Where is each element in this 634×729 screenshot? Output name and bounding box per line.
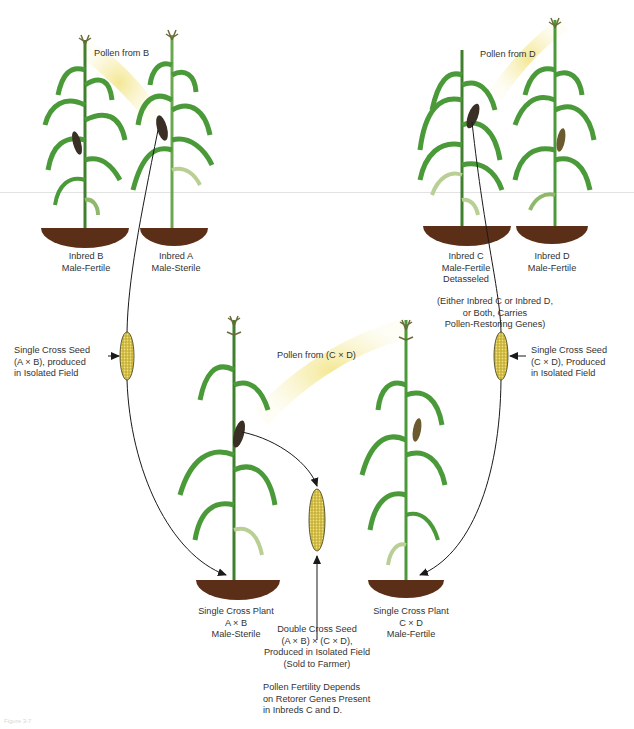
figure-caption: Figure 3-7 <box>4 718 31 724</box>
note-pollen-fertility: Pollen Fertility Dependson Retorer Genes… <box>263 682 370 717</box>
label-inbred-a: Inbred AMale-Sterile <box>140 251 212 274</box>
note-double-cross-seed: Double Cross Seed(A × B) × (C × D),Produ… <box>255 624 379 670</box>
pollen-from-d-label: Pollen from D <box>480 49 536 61</box>
label-inbred-d: Inbred DMale-Fertile <box>516 251 588 274</box>
seed-single-cross-cd <box>494 332 508 380</box>
pollen-cloud-cd <box>255 318 410 425</box>
pollen-from-b-label: Pollen from B <box>94 48 149 60</box>
note-restoring-genes: (Either Inbred C or Inbred D,or Both, Ca… <box>425 296 565 331</box>
seed-single-cross-ab <box>120 332 134 380</box>
pollen-from-cd-label: Pollen from (C × D) <box>277 350 356 362</box>
note-seed-ab: Single Cross Seed(A × B), producedin Iso… <box>14 345 90 380</box>
note-seed-cd: Single Cross Seed(C × D), Producedin Iso… <box>531 345 607 380</box>
label-inbred-b: Inbred BMale-Fertile <box>50 251 122 274</box>
plant-single-cross-cd <box>362 320 445 598</box>
plant-inbred-a <box>133 30 212 246</box>
seed-double-cross <box>309 489 325 551</box>
plant-inbred-c <box>420 50 511 246</box>
plant-single-cross-ab <box>180 316 280 600</box>
label-inbred-c: Inbred CMale-FertileDetasseled <box>430 251 502 286</box>
